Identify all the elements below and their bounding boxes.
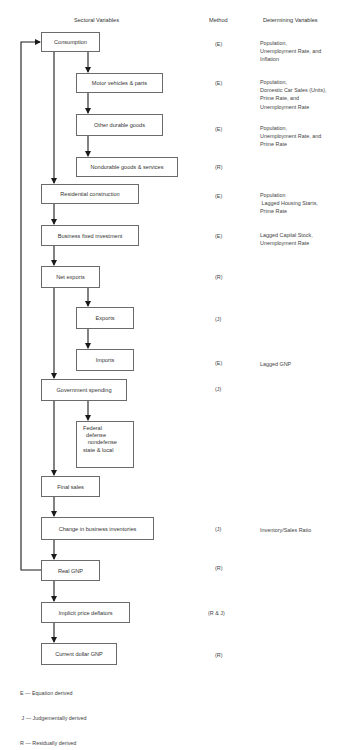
- feedback-loop-arrow: [21, 42, 41, 570]
- method-motor-vehicles: (E): [215, 80, 222, 86]
- node-residential: Residential construction: [41, 184, 139, 204]
- determining-other-durable: Population, Unemployment Rate, and Prime…: [260, 124, 321, 149]
- method-imports: (E): [215, 360, 222, 366]
- method-residential: (E): [215, 193, 222, 199]
- determining-imports: Lagged GNP: [260, 360, 291, 368]
- node-net-exports: Net exports: [41, 266, 100, 288]
- determining-business-fixed: Lagged Capital Stock, Unemployment Rate: [260, 231, 313, 247]
- node-imports: Imports: [76, 349, 134, 371]
- node-final-sales: Final sales: [41, 476, 100, 497]
- legend-equation: E — Equation derived: [20, 689, 87, 697]
- node-price-deflators: Implicit price deflators: [41, 602, 130, 623]
- node-consumption: Consumption: [41, 32, 100, 52]
- node-real-gnp: Real GNP: [41, 560, 100, 581]
- method-other-durable: (E): [215, 126, 222, 132]
- method-government: (J): [215, 386, 221, 392]
- legend-residual: R — Residually derived: [20, 739, 87, 747]
- method-real-gnp: (R): [215, 565, 222, 571]
- method-current-gnp: (R): [215, 652, 222, 658]
- method-nondurable: (R): [215, 164, 222, 170]
- node-government: Government spending: [41, 379, 127, 401]
- method-exports: (J): [215, 316, 221, 322]
- node-current-gnp: Current dollar GNP: [41, 643, 117, 665]
- method-business-fixed: (E): [215, 233, 222, 239]
- node-inventories: Change in business inventories: [41, 517, 154, 540]
- determining-inventories: Inventory/Sales Ratio: [260, 526, 311, 534]
- method-net-exports: (R): [215, 274, 222, 280]
- determining-consumption: Population, Unemployment Rate, and Infla…: [260, 39, 321, 64]
- legend-judgemental: J — Judgementally derived: [20, 714, 87, 722]
- method-consumption: (E): [215, 41, 222, 47]
- method-inventories: (J): [215, 526, 221, 532]
- node-nondurable: Nondurable goods & services: [76, 157, 178, 177]
- determining-residential: Population Lagged Housing Starts, Prime …: [260, 191, 318, 216]
- node-exports: Exports: [76, 307, 134, 329]
- node-federal: Federal defense nondefense state & local: [76, 421, 134, 468]
- node-other-durable: Other durable goods: [76, 114, 163, 136]
- node-motor-vehicles: Motor vehicles & parts: [76, 73, 163, 93]
- legend: E — Equation derived J — Judgementally d…: [20, 673, 87, 750]
- method-price-deflators: (R & J): [208, 610, 225, 616]
- node-business-fixed: Business fixed investment: [41, 225, 139, 246]
- determining-motor-vehicles: Population, Domestic Car Sales (Units), …: [260, 78, 327, 111]
